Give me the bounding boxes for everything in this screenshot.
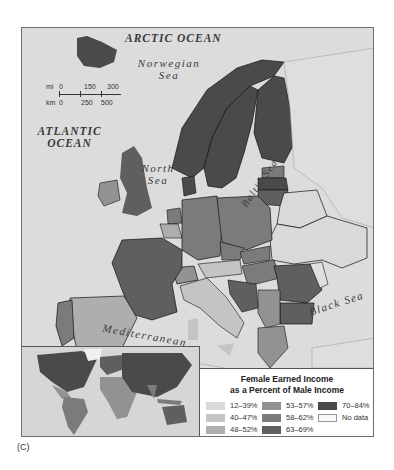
legend-swatch [206,414,225,422]
north-sea-line1: North [138,163,178,175]
scale-tick [80,91,81,97]
figure-caption: (C) [17,442,30,452]
legend-swatch [206,426,225,434]
scale-km-0: 0 [59,99,63,106]
country-hungary [242,260,280,286]
inset-indonesia [157,399,182,405]
atlantic-line2: OCEAN [32,137,107,149]
legend-item-no-data: No data [318,413,368,422]
country-greece [258,326,288,368]
legend-item-58-62: 58–62% [262,413,314,422]
inset-australia [162,405,187,425]
country-sardinia [188,318,198,340]
legend-swatch [318,402,337,410]
scale-km-500: 500 [101,99,113,106]
scale-mi-300: 300 [107,83,119,90]
country-denmark [182,176,196,196]
scale-tick [101,91,102,97]
legend-label: 58–62% [286,413,314,422]
inset-south-america [62,397,88,435]
legend-swatch [262,402,281,410]
scale-km-label: km [46,99,55,106]
legend-swatch [262,414,281,422]
scale-bar: mi 0 150 300 km 0 250 500 [46,83,116,109]
legend-title-line2: as a Percent of Male Income [200,385,374,396]
legend-label: 40–47% [230,413,258,422]
atlantic-line1: ATLANTIC [32,125,107,137]
inset-asia [122,353,192,397]
scale-mi-150: 150 [84,83,96,90]
legend-label: 63–69% [286,425,314,434]
scale-mi-0: 0 [59,83,63,90]
scale-tick [59,91,60,97]
legend-swatch [318,414,337,422]
legend: Female Earned Income as a Percent of Mal… [200,368,374,437]
country-serbia [258,290,280,328]
country-belgium [160,224,182,238]
norwegian-sea-label: Norwegian Sea [134,58,204,81]
legend-label: No data [342,413,368,422]
legend-title: Female Earned Income as a Percent of Mal… [200,374,374,396]
north-sea-line2: Sea [138,175,178,187]
country-turkey [312,338,374,368]
legend-item-12-39: 12–39% [206,401,258,410]
country-netherlands [167,208,182,224]
country-germany [182,196,222,260]
world-inset-map [22,346,200,437]
map-frame: ARCTIC OCEAN Norwegian Sea mi 0 150 300 … [21,27,374,437]
country-ireland [98,180,120,206]
norwegian-sea-line1: Norwegian [134,58,204,70]
world-map [22,347,200,437]
legend-item-48-52: 48–52% [206,425,258,434]
country-sicily [217,343,234,356]
legend-item-70-84: 70–84% [318,401,370,410]
scale-mi-label: mi [46,83,53,90]
north-sea-label: North Sea [138,163,178,186]
scale-km-250: 250 [81,99,93,106]
norwegian-sea-line2: Sea [134,70,204,82]
inset-europe [100,355,124,375]
legend-swatch [262,426,281,434]
atlantic-ocean-label: ATLANTIC OCEAN [32,125,107,149]
legend-label: 53–57% [286,401,314,410]
legend-swatch [206,402,225,410]
scale-line [59,94,121,95]
country-portugal [56,300,74,346]
country-iceland [77,36,117,68]
legend-item-40-47: 40–47% [206,413,258,422]
arctic-ocean-label: ARCTIC OCEAN [125,32,222,44]
legend-label: 48–52% [230,425,258,434]
legend-title-line1: Female Earned Income [200,374,374,385]
legend-item-63-69: 63–69% [262,425,314,434]
legend-label: 70–84% [342,401,370,410]
legend-item-53-57: 53–57% [262,401,314,410]
country-austria [198,260,242,278]
legend-label: 12–39% [230,401,258,410]
